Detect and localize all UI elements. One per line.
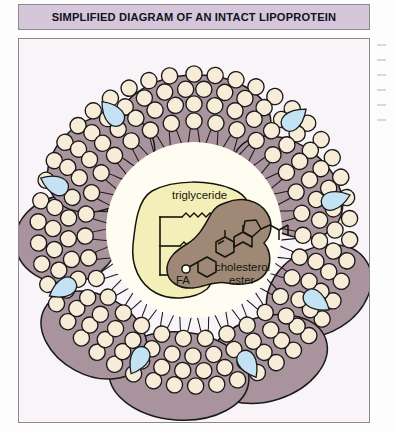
cholesterol-ester-label-line1: cholesterol bbox=[215, 261, 270, 273]
figure-title: SIMPLIFIED DIAGRAM OF AN INTACT LIPOPROT… bbox=[52, 11, 336, 23]
cholesterol-ester-label-line2: ester bbox=[229, 274, 255, 286]
phospholipid bbox=[195, 314, 214, 348]
page-bleed-marks bbox=[377, 40, 393, 380]
figure-page: SIMPLIFIED DIAGRAM OF AN INTACT LIPOPROT… bbox=[0, 0, 394, 432]
ester-oxygen-atom bbox=[182, 265, 190, 273]
figure-panel: triglyceride bbox=[18, 38, 370, 423]
figure-title-band: SIMPLIFIED DIAGRAM OF AN INTACT LIPOPROT… bbox=[18, 4, 370, 30]
lipoprotein-diagram: triglyceride bbox=[19, 39, 369, 422]
fatty-acid-label: FA bbox=[176, 274, 190, 286]
triglyceride-label: triglyceride bbox=[172, 189, 227, 201]
phospholipid bbox=[175, 314, 194, 348]
